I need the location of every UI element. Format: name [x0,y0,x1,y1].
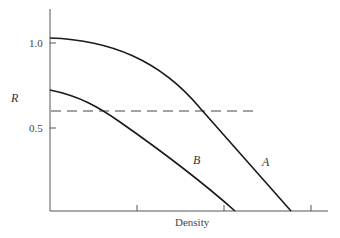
curve-a [50,38,291,211]
y-axis-label: R [10,91,19,105]
curve-b-label: B [193,153,201,167]
curve-b [50,90,235,211]
curve-a-label: A [261,155,270,169]
y-tick-label-1.0: 1.0 [29,37,43,49]
chart: 1.0 0.5 R Density A B [0,0,340,238]
y-tick-label-0.5: 0.5 [29,122,43,134]
x-axis-label: Density [175,216,210,228]
